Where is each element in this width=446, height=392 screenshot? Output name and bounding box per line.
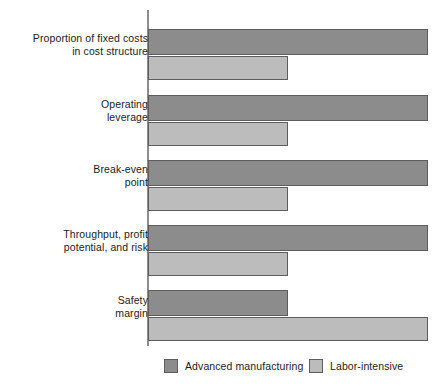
legend-item-advanced-manufacturing: Advanced manufacturing bbox=[164, 357, 303, 375]
bar-labor-intensive bbox=[148, 187, 288, 211]
category-label-line2: leverage bbox=[8, 111, 148, 124]
legend-label: Labor-intensive bbox=[330, 360, 403, 372]
category-label-line2: in cost structure bbox=[8, 45, 148, 58]
category-label-line1: Safety bbox=[118, 294, 148, 306]
bar-labor-intensive bbox=[148, 252, 288, 276]
bar-advanced-manufacturing bbox=[148, 290, 288, 316]
legend-item-labor-intensive: Labor-intensive bbox=[309, 357, 403, 375]
chart-legend: Advanced manufacturing Labor-intensive bbox=[0, 357, 446, 379]
bar-advanced-manufacturing bbox=[148, 29, 428, 55]
category-label-line2: potential, and risk bbox=[8, 241, 148, 254]
category-label-line1: Break-even bbox=[93, 163, 148, 175]
category-label-line1: Proportion of fixed costs bbox=[33, 32, 148, 44]
category-label-proportion-of-fixed-costs: Proportion of fixed costs in cost struct… bbox=[8, 32, 148, 58]
plot-area bbox=[148, 10, 440, 346]
category-label-line2: point bbox=[8, 176, 148, 189]
bar-labor-intensive bbox=[148, 56, 288, 80]
category-label-line1: Throughput, profit bbox=[63, 228, 148, 240]
category-label-operating-leverage: Operating leverage bbox=[8, 98, 148, 124]
category-label-throughput-profit-potential-risk: Throughput, profit potential, and risk bbox=[8, 228, 148, 254]
category-label-break-even-point: Break-even point bbox=[8, 163, 148, 189]
legend-label: Advanced manufacturing bbox=[185, 360, 303, 372]
bar-labor-intensive bbox=[148, 122, 288, 146]
bar-advanced-manufacturing bbox=[148, 225, 428, 251]
bar-chart: Proportion of fixed costs in cost struct… bbox=[0, 0, 446, 392]
category-label-line2: margin bbox=[8, 307, 148, 320]
bar-advanced-manufacturing bbox=[148, 95, 428, 121]
legend-swatch-icon bbox=[309, 359, 323, 373]
category-label-line1: Operating bbox=[101, 98, 148, 110]
bar-labor-intensive bbox=[148, 317, 428, 341]
category-label-safety-margin: Safety margin bbox=[8, 294, 148, 320]
legend-swatch-icon bbox=[164, 359, 178, 373]
bar-advanced-manufacturing bbox=[148, 160, 428, 186]
